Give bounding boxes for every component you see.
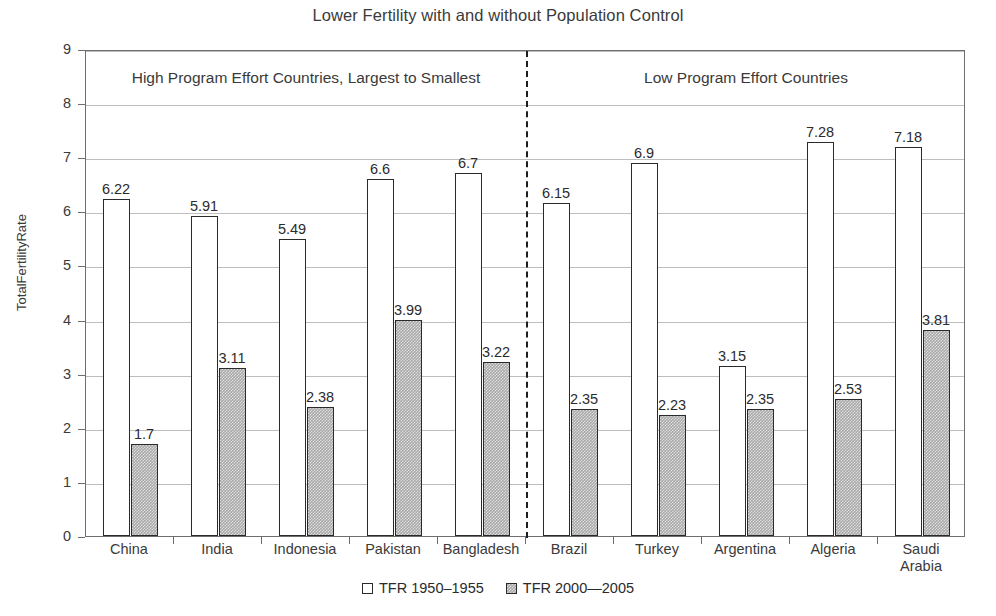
panel-header-high-effort: High Program Effort Countries, Largest t… [86, 69, 526, 87]
bar-value-label: 3.81 [914, 312, 959, 328]
y-tick-mark [78, 429, 85, 430]
fertility-bar-chart: Lower Fertility with and without Populat… [0, 0, 996, 616]
y-tick-mark [78, 266, 85, 267]
bar [191, 216, 218, 536]
bar-value-label: 1.7 [122, 426, 167, 442]
bar [807, 142, 834, 536]
y-axis-title: TotalFertilityRate [14, 173, 29, 353]
x-axis-label-china: China [85, 541, 173, 558]
y-tick-label: 4 [45, 313, 71, 327]
bar-value-label: 5.49 [270, 221, 315, 237]
y-tick-label: 6 [45, 204, 71, 218]
y-tick-label: 8 [45, 96, 71, 110]
x-axis-label-indonesia: Indonesia [261, 541, 349, 558]
bar-value-label: 2.23 [650, 397, 695, 413]
bar-value-label: 2.35 [562, 391, 607, 407]
x-label-line: Turkey [613, 541, 701, 558]
gridline [86, 105, 964, 106]
bar [835, 399, 862, 536]
gridline [86, 51, 964, 52]
bar-value-label: 7.18 [886, 129, 931, 145]
bar-value-label: 2.38 [298, 389, 343, 405]
x-axis-label-pakistan: Pakistan [349, 541, 437, 558]
bar-value-label: 7.28 [798, 124, 843, 140]
bar-value-label: 2.53 [826, 381, 871, 397]
y-tick-mark [78, 50, 85, 51]
bar-value-label: 3.99 [386, 302, 431, 318]
y-tick-label: 0 [45, 529, 71, 543]
x-label-line: Saudi [877, 541, 965, 558]
bar-value-label: 6.7 [446, 155, 491, 171]
legend-label: TFR 2000—2005 [523, 580, 634, 596]
x-axis-label-bangladesh: Bangladesh [437, 541, 525, 558]
x-axis-label-brazil: Brazil [525, 541, 613, 558]
bar-value-label: 3.22 [474, 344, 519, 360]
x-label-line: Indonesia [261, 541, 349, 558]
x-label-line: Pakistan [349, 541, 437, 558]
bar-value-label: 6.9 [622, 145, 667, 161]
bar-value-label: 5.91 [182, 198, 227, 214]
y-tick-mark [78, 375, 85, 376]
x-axis-label-argentina: Argentina [701, 541, 789, 558]
bar-value-label: 3.15 [710, 348, 755, 364]
y-tick-label: 2 [45, 421, 71, 435]
bar [307, 407, 334, 536]
bar [747, 409, 774, 536]
x-label-line: Arabia [877, 558, 965, 575]
x-label-line: Algeria [789, 541, 877, 558]
bar [543, 203, 570, 536]
bar [279, 239, 306, 536]
legend-item[interactable]: TFR 2000—2005 [506, 580, 634, 596]
bar [571, 409, 598, 536]
y-tick-mark [78, 537, 85, 538]
bar [367, 179, 394, 536]
bar [103, 199, 130, 536]
bar [395, 320, 422, 536]
y-tick-mark [78, 483, 85, 484]
bar-value-label: 2.35 [738, 391, 783, 407]
x-label-line: India [173, 541, 261, 558]
y-tick-mark [78, 212, 85, 213]
x-axis-label-algeria: Algeria [789, 541, 877, 558]
legend-swatch-icon [506, 583, 517, 594]
bar [659, 415, 686, 536]
bar [131, 444, 158, 536]
x-axis-label-turkey: Turkey [613, 541, 701, 558]
bar [631, 163, 658, 536]
y-tick-mark [78, 321, 85, 322]
chart-legend: TFR 1950–1955TFR 2000—2005 [0, 580, 996, 596]
plot-area: High Program Effort Countries, Largest t… [85, 50, 965, 537]
x-axis-label-india: India [173, 541, 261, 558]
x-label-line: China [85, 541, 173, 558]
panel-divider-line [526, 51, 528, 538]
bar [923, 330, 950, 536]
legend-swatch-icon [362, 583, 373, 594]
panel-header-low-effort: Low Program Effort Countries [526, 69, 966, 87]
bar-value-label: 6.15 [534, 185, 579, 201]
bar [483, 362, 510, 536]
bar-value-label: 6.6 [358, 161, 403, 177]
y-tick-label: 5 [45, 258, 71, 272]
x-label-line: Argentina [701, 541, 789, 558]
y-tick-label: 7 [45, 150, 71, 164]
bar [219, 368, 246, 536]
chart-title: Lower Fertility with and without Populat… [0, 6, 996, 25]
y-tick-label: 9 [45, 42, 71, 56]
y-tick-label: 1 [45, 475, 71, 489]
bar [895, 147, 922, 536]
bar-value-label: 3.11 [210, 350, 255, 366]
x-label-line: Brazil [525, 541, 613, 558]
x-axis-label-saudi-arabia: SaudiArabia [877, 541, 965, 575]
y-tick-mark [78, 158, 85, 159]
y-tick-mark [78, 104, 85, 105]
legend-item[interactable]: TFR 1950–1955 [362, 580, 484, 596]
bar-value-label: 6.22 [94, 181, 139, 197]
y-tick-label: 3 [45, 367, 71, 381]
x-label-line: Bangladesh [437, 541, 525, 558]
legend-label: TFR 1950–1955 [379, 580, 484, 596]
